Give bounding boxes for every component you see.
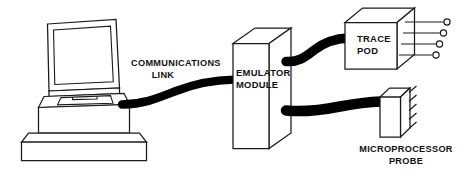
communications-link-label-line2: LINK xyxy=(152,70,175,80)
computer-base-front xyxy=(22,142,147,161)
emulator-module: EMULATOR MODULE xyxy=(233,28,291,149)
trace-pod-lead-ring-3 xyxy=(436,41,442,47)
communications-link-cable xyxy=(122,80,234,105)
emulator-module-label-line2: MODULE xyxy=(236,79,278,90)
trace-pod-label-line1: TRACE xyxy=(357,33,391,44)
probe-label-line1: MICROPROCESSOR xyxy=(359,144,453,154)
trace-pod-lead-ring-1 xyxy=(444,19,450,25)
emulator-module-front-face xyxy=(233,44,269,149)
probe-front-face xyxy=(380,97,401,137)
communications-link-label-line1: COMMUNICATIONS xyxy=(131,58,221,68)
trace-pod-lead-ring-2 xyxy=(440,30,446,36)
trace-pod-lead-ring-4 xyxy=(433,52,439,58)
emulator-system-diagram: COMMUNICATIONS LINK EMULATOR MODULE TRAC… xyxy=(0,0,463,176)
trace-pod-label-line2: POD xyxy=(357,45,378,56)
probe-label-line2: PROBE xyxy=(389,156,423,166)
trace-pod-cable xyxy=(286,38,348,62)
trace-pod: TRACE POD xyxy=(345,8,450,69)
trace-pod-cable-path xyxy=(286,38,348,62)
computer-body xyxy=(39,105,130,134)
probe-cable-path xyxy=(286,102,382,112)
host-computer xyxy=(22,20,147,161)
computer-base-top xyxy=(22,133,147,142)
communications-link-cable-path xyxy=(122,80,234,105)
probe-cable xyxy=(286,102,382,112)
probe-side-face xyxy=(401,88,411,137)
diagram-canvas: COMMUNICATIONS LINK EMULATOR MODULE TRAC… xyxy=(0,0,463,176)
emulator-module-label-line1: EMULATOR xyxy=(236,67,291,78)
